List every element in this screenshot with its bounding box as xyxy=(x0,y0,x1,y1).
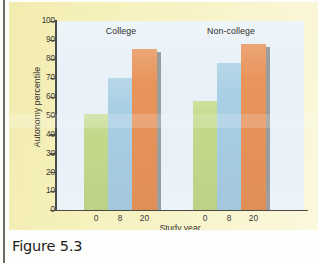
bar-noncollege-year-20[interactable] xyxy=(241,44,266,210)
group-label-college: College xyxy=(86,26,156,36)
page-gutter-rule xyxy=(3,0,5,263)
y-axis-line xyxy=(55,20,57,211)
bar-fill xyxy=(132,49,157,210)
group-label-noncollege: Non-college xyxy=(192,26,270,36)
x-axis-title: Study year xyxy=(56,223,304,230)
x-tick-label-noncollege-0: 0 xyxy=(193,213,217,223)
bar-fill xyxy=(84,114,108,210)
bar-noncollege-year-0[interactable] xyxy=(193,101,217,210)
bar-college-year-20[interactable] xyxy=(132,49,157,210)
x-tick-label-noncollege-20: 20 xyxy=(241,213,266,223)
y-axis-title: Autonomy percentile xyxy=(32,32,42,182)
x-tick-label-college-20: 20 xyxy=(132,213,157,223)
y-tick-label-0: 0 xyxy=(31,205,55,214)
x-tick-label-noncollege-8: 8 xyxy=(217,213,241,223)
y-tick-label-100: 100 xyxy=(31,16,55,25)
figure-page: 100 90 80 70 60 50 40 30 20 10 0 Autonom… xyxy=(0,0,318,263)
x-tick-label-college-0: 0 xyxy=(84,213,108,223)
bar-fill xyxy=(217,63,241,210)
bar-college-year-8[interactable] xyxy=(108,78,132,210)
bar-fill xyxy=(193,101,217,210)
x-tick-label-college-8: 8 xyxy=(108,213,132,223)
figure-caption: Figure 5.3 xyxy=(12,238,82,254)
bar-fill xyxy=(241,44,266,210)
bar-noncollege-year-8[interactable] xyxy=(217,63,241,210)
bar-college-year-0[interactable] xyxy=(84,114,108,210)
figure-image: 100 90 80 70 60 50 40 30 20 10 0 Autonom… xyxy=(9,2,318,230)
x-axis-line xyxy=(55,210,308,212)
y-tick-label-10: 10 xyxy=(31,186,55,195)
bar-fill xyxy=(108,78,132,210)
